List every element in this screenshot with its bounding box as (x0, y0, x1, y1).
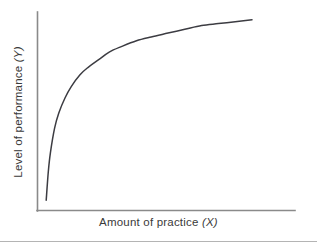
x-axis-label-text: Amount of practice (99, 216, 198, 228)
x-axis-label: Amount of practice (X) (0, 216, 317, 228)
learning-curve-line (46, 20, 252, 201)
chart-plot-area (0, 0, 317, 247)
y-axis-label-variable: (Y) (12, 46, 24, 62)
data-curve-group (46, 20, 252, 201)
axes-group (37, 12, 295, 211)
x-axis-label-variable: (X) (202, 216, 218, 228)
y-axis-label-text: Level of performance (12, 66, 24, 178)
footer-divider (0, 241, 317, 242)
learning-curve-figure: Level of performance (Y) Amount of pract… (0, 0, 317, 247)
y-axis-label: Level of performance (Y) (12, 22, 24, 202)
